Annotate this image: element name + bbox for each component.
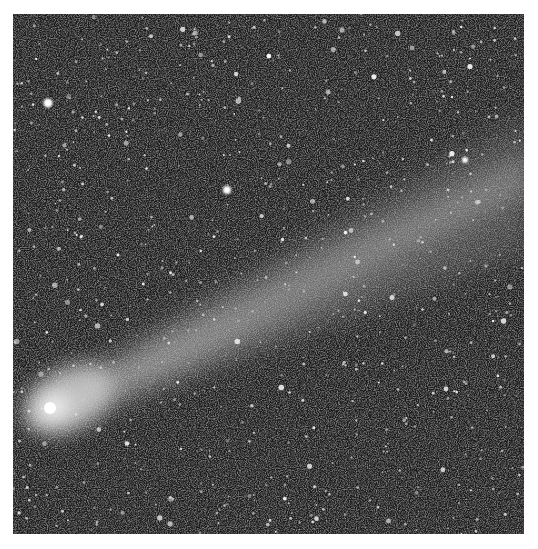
star (369, 24, 371, 26)
star (288, 288, 290, 290)
star (444, 387, 449, 392)
star (354, 71, 357, 74)
star (280, 135, 283, 138)
star (499, 254, 501, 256)
star (15, 149, 18, 152)
star (186, 93, 189, 96)
star (447, 397, 449, 399)
bright-star (44, 99, 53, 108)
star (369, 500, 371, 502)
star (25, 517, 28, 520)
star (312, 210, 315, 213)
star (489, 59, 491, 61)
star (451, 96, 453, 98)
star (349, 228, 354, 233)
star (157, 515, 162, 520)
star (452, 352, 454, 354)
star (377, 506, 380, 509)
star (28, 428, 31, 431)
star (312, 426, 315, 429)
star (452, 283, 454, 285)
star (449, 161, 452, 164)
star (199, 281, 202, 284)
star (80, 360, 82, 362)
star (266, 523, 270, 527)
star (325, 490, 328, 493)
star (452, 173, 454, 175)
star (278, 178, 280, 180)
star (514, 37, 517, 40)
star (253, 26, 256, 29)
star (496, 75, 498, 77)
star (132, 119, 135, 122)
star (401, 365, 403, 367)
star (106, 191, 109, 194)
star (75, 129, 78, 132)
star (58, 155, 61, 158)
star (126, 318, 129, 321)
star (288, 502, 290, 504)
star (269, 185, 272, 188)
star (115, 103, 118, 106)
star (504, 394, 506, 396)
star (481, 449, 483, 451)
star (143, 154, 145, 156)
star (79, 167, 81, 169)
star (213, 318, 216, 321)
star (382, 471, 384, 473)
star (448, 313, 450, 315)
star (80, 309, 82, 311)
star (120, 394, 122, 396)
star (356, 486, 359, 489)
star (59, 372, 61, 374)
star (419, 236, 422, 239)
star (40, 275, 42, 277)
star (123, 431, 125, 433)
star (35, 494, 37, 496)
star (488, 293, 490, 295)
star (251, 82, 254, 85)
star (417, 486, 419, 488)
star (288, 391, 290, 393)
star (432, 392, 435, 395)
star (178, 132, 182, 136)
star (441, 55, 443, 57)
star (270, 476, 272, 478)
star (326, 90, 331, 95)
star (235, 339, 241, 345)
star (145, 72, 148, 75)
star (289, 69, 291, 71)
star (299, 522, 301, 524)
star (199, 304, 201, 306)
star (443, 266, 447, 270)
star (275, 531, 277, 533)
star (125, 390, 127, 392)
star (135, 462, 137, 464)
star (83, 481, 86, 484)
star (154, 108, 156, 110)
star (254, 250, 256, 252)
star (452, 31, 456, 35)
star (442, 95, 445, 98)
star (452, 517, 454, 519)
star (330, 171, 332, 173)
star (167, 341, 170, 344)
star (127, 492, 130, 495)
star (145, 244, 147, 246)
star (433, 411, 435, 413)
star (127, 180, 129, 182)
star (220, 406, 222, 408)
comet-nucleus-core (44, 402, 56, 414)
star (89, 363, 91, 365)
star (178, 403, 181, 406)
star (93, 267, 96, 270)
star (237, 238, 239, 240)
star (201, 99, 203, 101)
star (324, 97, 326, 99)
star (455, 391, 458, 394)
star (469, 58, 471, 60)
star (20, 82, 23, 85)
star (235, 139, 237, 141)
star (393, 370, 395, 372)
star (216, 24, 218, 26)
